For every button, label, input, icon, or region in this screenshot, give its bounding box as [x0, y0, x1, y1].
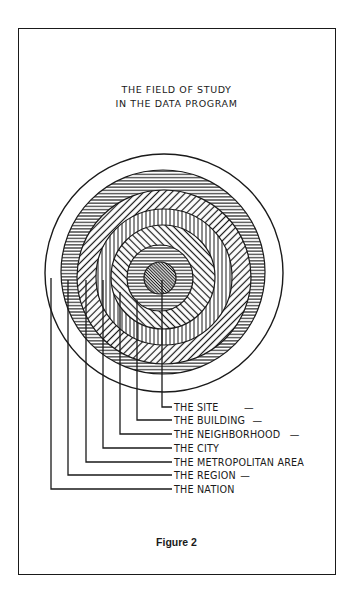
label-nation: THE NATION — [174, 484, 235, 495]
label-building-text: THE BUILDING — [174, 415, 245, 426]
label-metropolitan-area: THE METROPOLITAN AREA — [174, 457, 304, 468]
ring-site — [144, 262, 176, 294]
figure-caption: Figure 2 — [0, 536, 353, 548]
label-region: THE REGION — — [174, 470, 250, 481]
label-city: THE CITY — [174, 443, 219, 454]
label-site-dash: — — [244, 402, 254, 413]
label-neighborhood-dash: — — [290, 429, 300, 440]
label-city-text: THE CITY — [174, 443, 219, 454]
label-metropolitan-area-text: THE METROPOLITAN AREA — [174, 457, 304, 468]
concentric-field-diagram — [0, 0, 353, 604]
label-site: THE SITE — — [174, 402, 254, 413]
label-building-dash: — — [252, 415, 262, 426]
label-site-text: THE SITE — [174, 402, 219, 413]
label-building: THE BUILDING — — [174, 415, 262, 426]
rings — [45, 154, 283, 392]
label-neighborhood-text: THE NEIGHBORHOOD — [174, 429, 280, 440]
label-region-dash: — — [240, 470, 250, 481]
label-neighborhood: THE NEIGHBORHOOD — — [174, 429, 299, 440]
label-region-text: THE REGION — [174, 470, 236, 481]
label-nation-text: THE NATION — [174, 484, 235, 495]
